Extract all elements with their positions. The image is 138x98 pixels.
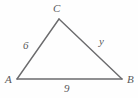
triangle-figure: C A B 6 y 9 bbox=[0, 0, 138, 98]
vertex-label-a: A bbox=[5, 74, 12, 85]
side-length-label-cb: y bbox=[99, 36, 104, 47]
side-length-label-ac: 6 bbox=[23, 40, 29, 51]
vertex-label-b: B bbox=[127, 74, 134, 85]
side-CB-line bbox=[59, 19, 122, 79]
side-length-label-ab: 9 bbox=[64, 83, 70, 94]
vertex-label-c: C bbox=[53, 3, 60, 14]
